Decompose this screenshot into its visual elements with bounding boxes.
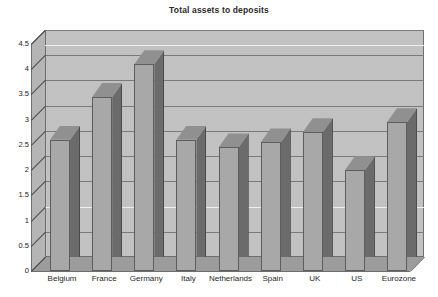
y-axis: 00.511.522.533.544.5 [0,30,29,271]
x-axis-label-netherlands: Netherlands [209,274,252,283]
x-axis: BelgiumFranceGermanyItalyNetherlandsSpai… [31,274,431,292]
bar-side [196,126,206,257]
y-axis-label: 0 [25,266,29,275]
x-axis-label-france: France [92,274,117,283]
x-axis-label-italy: Italy [181,274,196,283]
x-axis-label-belgium: Belgium [48,274,77,283]
y-axis-label: 2.5 [19,140,29,149]
x-axis-label-us: US [351,274,362,283]
x-axis-label-uk: UK [309,274,320,283]
y-axis-label: 2 [25,165,29,174]
bar-face [92,97,112,271]
y-axis-label: 1 [25,216,29,225]
bar-side [70,126,80,257]
bar-face [303,132,323,271]
bar-face [134,64,154,271]
axis-line-bottom [31,271,410,272]
x-axis-label-eurozone: Eurozone [382,274,416,283]
bar-side [112,83,122,257]
bar-uk [303,118,323,271]
y-axis-label: 3 [25,115,29,124]
chart-title: Total assets to deposits [0,5,438,15]
bar-netherlands [219,133,239,271]
bar-side [407,108,417,257]
axis-line-left [31,44,32,271]
bar-chart: Total assets to deposits 00.511.522.533.… [0,0,438,297]
y-axis-label: 0.5 [19,241,29,250]
bar-belgium [50,126,70,271]
bar-side [323,118,333,257]
bar-italy [176,126,196,271]
y-axis-label: 1.5 [19,190,29,199]
y-axis-label: 3.5 [19,89,29,98]
bar-face [261,142,281,271]
y-axis-label: 4 [25,64,29,73]
y-axis-label: 4.5 [19,39,29,48]
plot-area [31,30,424,271]
bar-side [154,50,164,257]
bar-face [219,147,239,271]
gridline [45,55,424,56]
bar-face [50,140,70,271]
bar-face [387,122,407,271]
bar-side [281,128,291,257]
bar-side [365,156,375,257]
bar-eurozone [387,108,407,271]
bar-face [345,170,365,271]
x-axis-label-spain: Spain [262,274,282,283]
x-axis-label-germany: Germany [130,274,163,283]
bar-spain [261,128,281,271]
gridline [45,80,424,81]
bar-face [176,140,196,271]
bar-us [345,156,365,271]
gridline [45,30,424,31]
gridline-highlight [45,45,424,46]
bar-germany [134,50,154,271]
bar-france [92,83,112,271]
bar-side [239,133,249,257]
